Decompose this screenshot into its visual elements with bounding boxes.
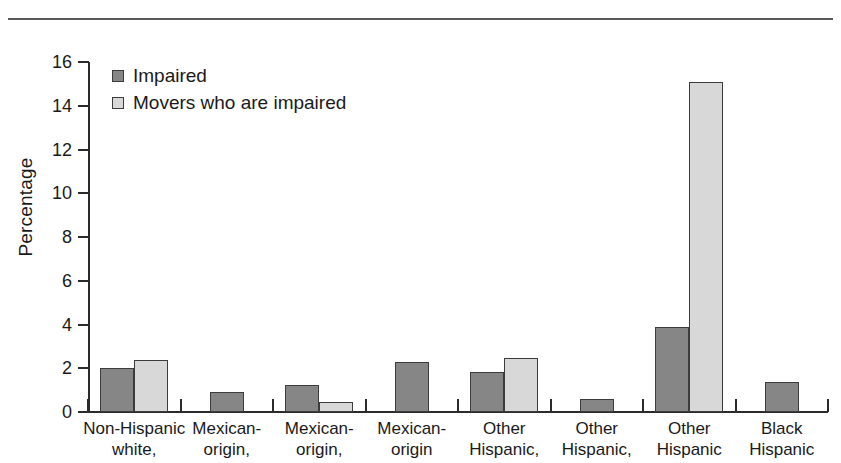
y-tick-10 — [78, 192, 89, 194]
bar-impaired-group-6 — [655, 327, 689, 412]
bar-movers-group-4 — [504, 358, 538, 412]
legend-label-movers-who-are-impaired: Movers who are impaired — [133, 93, 346, 112]
x-tick-1 — [180, 399, 182, 412]
x-tick-7 — [735, 399, 737, 412]
bar-impaired-group-3 — [395, 362, 429, 412]
bar-impaired-group-0 — [100, 368, 134, 412]
chart-legend: Impaired Movers who are impaired — [112, 62, 346, 116]
y-tick-12 — [78, 149, 89, 151]
legend-label-impaired: Impaired — [133, 66, 207, 85]
bar-impaired-group-2 — [285, 385, 319, 412]
bar-impaired-group-1 — [210, 392, 244, 412]
x-tick-0 — [87, 399, 89, 412]
legend-item-movers-who-are-impaired: Movers who are impaired — [112, 89, 346, 116]
x-label-line: Black — [716, 418, 841, 439]
legend-swatch-movers-who-are-impaired — [112, 97, 124, 109]
y-tick-2 — [78, 367, 89, 369]
bar-chart-figure: Percentage 0246810121416 Impaired Movers… — [0, 0, 841, 463]
bar-movers-group-0 — [134, 360, 168, 413]
y-tick-4 — [78, 324, 89, 326]
x-tick-8 — [827, 399, 829, 412]
x-tick-2 — [272, 399, 274, 412]
bar-movers-group-2 — [319, 402, 353, 412]
y-tick-label-6: 6 — [28, 272, 72, 290]
x-tick-6 — [642, 399, 644, 412]
x-tick-3 — [365, 399, 367, 412]
y-tick-label-8: 8 — [28, 228, 72, 246]
y-tick-label-12: 12 — [28, 141, 72, 159]
bar-impaired-group-4 — [470, 372, 504, 412]
legend-item-impaired: Impaired — [112, 62, 346, 89]
x-tick-4 — [457, 399, 459, 412]
y-tick-16 — [78, 61, 89, 63]
y-tick-8 — [78, 236, 89, 238]
bar-impaired-group-7 — [765, 382, 799, 412]
y-tick-label-4: 4 — [28, 316, 72, 334]
y-tick-label-16: 16 — [28, 53, 72, 71]
bar-impaired-group-5 — [580, 399, 614, 412]
x-axis-label-7: BlackHispanic — [716, 418, 841, 460]
y-tick-6 — [78, 280, 89, 282]
y-tick-label-10: 10 — [28, 184, 72, 202]
y-tick-label-14: 14 — [28, 97, 72, 115]
bar-movers-group-6 — [689, 82, 723, 412]
x-label-line: Hispanic — [716, 439, 841, 460]
y-tick-label-0: 0 — [28, 403, 72, 421]
y-tick-14 — [78, 105, 89, 107]
x-tick-5 — [550, 399, 552, 412]
legend-swatch-impaired — [112, 70, 124, 82]
y-tick-label-2: 2 — [28, 359, 72, 377]
